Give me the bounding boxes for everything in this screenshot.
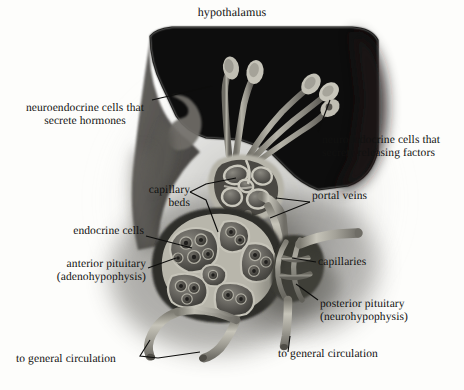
cell-cluster [202, 265, 227, 286]
label-capillary-beds: capillary beds [118, 184, 190, 209]
label-portal-veins: portal veins [312, 190, 422, 203]
label-endocrine-cells: endocrine cells [40, 225, 144, 238]
label-to-general-circulation-left: to general circulation [16, 353, 156, 366]
label-hypothalamus: hypothalamus [0, 6, 464, 19]
label-posterior-pituitary: posterior pituitary (neurohypophysis) [320, 298, 460, 323]
label-to-general-circulation-right: to general circulation [278, 348, 428, 361]
label-neuroendocrine-cells-secrete-releasing-factors: neuroendocrine cells that secrete releas… [322, 134, 462, 159]
anterior-pituitary [152, 208, 285, 323]
leader-gencirc-left-b [158, 352, 200, 358]
figure-canvas: hypothalamus neuroendocrine cells that s… [0, 0, 464, 390]
label-capillaries: capillaries [318, 256, 428, 269]
label-anterior-pituitary: anterior pituitary (adenohypophysis) [18, 258, 146, 283]
label-neuroendocrine-cells-secrete-hormones: neuroendocrine cells that secrete hormon… [10, 102, 160, 127]
